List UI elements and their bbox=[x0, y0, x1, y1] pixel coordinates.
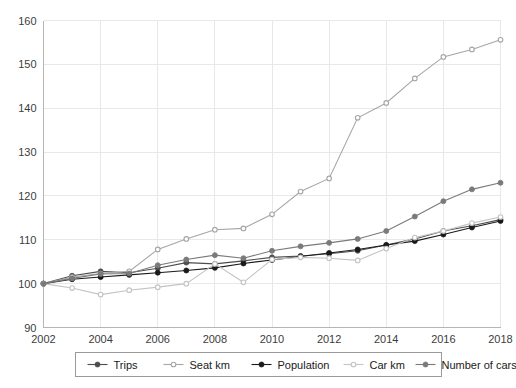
data-point bbox=[212, 253, 217, 258]
data-point bbox=[184, 281, 189, 286]
x-tick-label: 2018 bbox=[488, 333, 512, 345]
data-point bbox=[441, 55, 446, 60]
data-point bbox=[184, 257, 189, 262]
data-point bbox=[241, 261, 246, 266]
legend-swatch-marker bbox=[351, 362, 356, 367]
y-axis-tick-labels: 90100110120130140150160 bbox=[18, 15, 36, 334]
data-point bbox=[327, 176, 332, 181]
x-tick-label: 2012 bbox=[317, 333, 341, 345]
data-point bbox=[327, 240, 332, 245]
data-point bbox=[327, 250, 332, 255]
x-tick-label: 2010 bbox=[260, 333, 284, 345]
x-tick-label: 2004 bbox=[88, 333, 112, 345]
line-chart: 90100110120130140150160 2002200420062008… bbox=[0, 0, 516, 388]
legend-item-label: Number of cars bbox=[442, 359, 516, 371]
legend-item-label: Trips bbox=[114, 359, 139, 371]
legend-swatch-marker bbox=[171, 362, 176, 367]
x-tick-label: 2002 bbox=[31, 333, 55, 345]
legend-item-label: Seat km bbox=[190, 359, 230, 371]
data-point bbox=[127, 271, 132, 276]
data-point bbox=[155, 270, 160, 275]
data-point bbox=[327, 256, 332, 261]
data-point bbox=[498, 180, 503, 185]
legend-swatch-marker bbox=[259, 362, 264, 367]
data-point bbox=[98, 271, 103, 276]
chart-canvas: 90100110120130140150160 2002200420062008… bbox=[0, 0, 516, 388]
y-tick-label: 120 bbox=[18, 190, 36, 202]
legend-item-label: Population bbox=[278, 359, 330, 371]
data-point bbox=[413, 235, 418, 240]
data-point bbox=[241, 226, 246, 231]
data-point bbox=[184, 237, 189, 242]
data-point bbox=[355, 236, 360, 241]
data-point bbox=[270, 257, 275, 262]
data-point bbox=[70, 286, 75, 291]
y-tick-label: 130 bbox=[18, 146, 36, 158]
data-point bbox=[355, 247, 360, 252]
data-point bbox=[41, 281, 46, 286]
x-axis-tick-labels: 200220042006200820102012201420162018 bbox=[31, 333, 512, 345]
legend-swatch-marker bbox=[423, 362, 428, 367]
data-point bbox=[98, 292, 103, 297]
data-point bbox=[469, 187, 474, 192]
data-point bbox=[270, 212, 275, 217]
data-point bbox=[384, 101, 389, 106]
data-point bbox=[413, 76, 418, 81]
data-point bbox=[155, 285, 160, 290]
data-point bbox=[155, 247, 160, 252]
y-tick-label: 160 bbox=[18, 15, 36, 27]
data-point bbox=[241, 280, 246, 285]
data-point bbox=[155, 263, 160, 268]
data-point bbox=[441, 199, 446, 204]
data-point bbox=[270, 248, 275, 253]
x-tick-label: 2016 bbox=[431, 333, 455, 345]
data-point bbox=[470, 221, 475, 226]
data-point bbox=[470, 47, 475, 52]
data-point bbox=[384, 246, 389, 251]
data-point bbox=[498, 38, 503, 43]
data-point bbox=[355, 116, 360, 121]
data-point bbox=[298, 244, 303, 249]
data-point bbox=[498, 215, 503, 220]
x-tick-label: 2014 bbox=[374, 333, 398, 345]
data-point bbox=[384, 229, 389, 234]
data-point bbox=[241, 256, 246, 261]
data-point bbox=[70, 276, 75, 281]
data-point bbox=[184, 268, 189, 273]
data-point bbox=[127, 288, 132, 293]
chart-legend[interactable]: TripsSeat kmPopulationCar kmNumber of ca… bbox=[76, 353, 516, 377]
y-tick-label: 140 bbox=[18, 102, 36, 114]
y-tick-label: 150 bbox=[18, 58, 36, 70]
data-point bbox=[412, 214, 417, 219]
data-point bbox=[298, 255, 303, 260]
y-tick-label: 110 bbox=[19, 234, 37, 246]
legend-swatch-marker bbox=[95, 362, 100, 367]
gridlines-layer bbox=[44, 21, 501, 328]
x-tick-label: 2008 bbox=[203, 333, 227, 345]
legend-item-label: Car km bbox=[370, 359, 405, 371]
data-point bbox=[213, 262, 218, 267]
data-point bbox=[213, 227, 218, 232]
data-point bbox=[355, 258, 360, 263]
data-point bbox=[298, 189, 303, 194]
data-point bbox=[441, 229, 446, 234]
y-tick-label: 100 bbox=[18, 278, 36, 290]
x-tick-label: 2006 bbox=[146, 333, 170, 345]
